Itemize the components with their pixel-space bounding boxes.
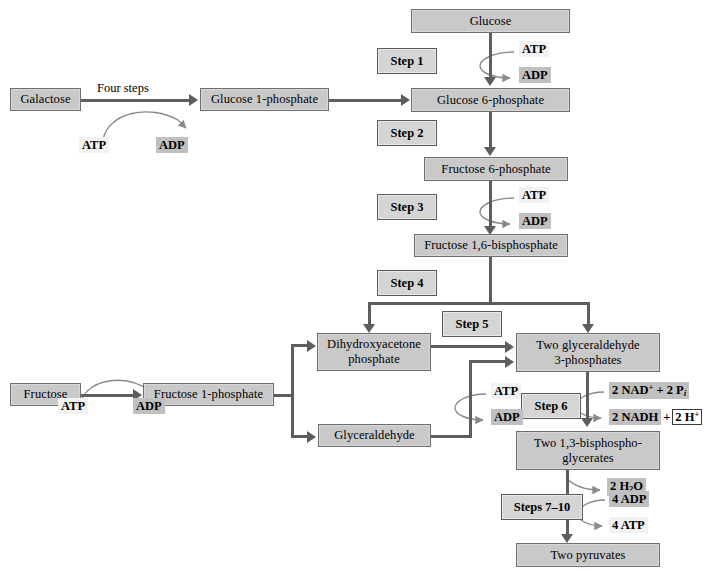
cofactor-pi-prefix: + 2 P: [653, 383, 683, 397]
connector-split-left-down: [368, 302, 371, 326]
arrowhead-galactose-to-g1p: [189, 94, 198, 106]
arrowhead-split-to-g3p: [582, 324, 594, 333]
metabolite-box-pyruvate[interactable]: Two pyruvates: [516, 543, 660, 567]
metabolite-label-pyruvate: Two pyruvates: [546, 548, 629, 563]
arrowhead-split-to-dhap: [363, 324, 375, 333]
metabolite-box-glucose-6-phosphate[interactable]: Glucose 6-phosphate: [411, 88, 570, 112]
cofactor-pi-subscript: i: [684, 388, 687, 398]
step-label-1[interactable]: Step 1: [377, 48, 437, 74]
connector-dhap-to-g3p: [430, 345, 506, 348]
cofactor-nad-prefix: 2 NAD: [612, 383, 648, 397]
connector-glyceraldehyde-right: [430, 435, 472, 438]
connector-glyceraldehyde-to-g3p: [469, 360, 506, 363]
cofactor-nadh-plus: +: [661, 410, 672, 424]
cofactor-proton-text: 2 H: [675, 410, 694, 424]
metabolite-box-fructose-1-6-bisphosphate[interactable]: Fructose 1,6-bisphosphate: [414, 234, 568, 257]
step-label-4-text: Step 4: [391, 276, 424, 291]
metabolite-label-dhap-line1: Dihydroxyacetone: [323, 337, 425, 352]
arrowhead-f1p-to-dhap: [307, 340, 316, 352]
step-label-3[interactable]: Step 3: [377, 194, 437, 220]
metabolite-label-glucose: Glucose: [466, 14, 516, 29]
metabolite-box-glucose-1-phosphate[interactable]: Glucose 1-phosphate: [200, 88, 329, 111]
metabolite-label-fructose-1-phosphate: Fructose 1-phosphate: [150, 387, 267, 402]
connector-glucose-to-g6p: [489, 32, 492, 79]
step-label-5[interactable]: Step 5: [442, 311, 502, 337]
cofactor-atp-step3: ATP: [519, 187, 549, 203]
step-label-6-text: Step 6: [535, 399, 568, 414]
metabolite-box-fructose-6-phosphate[interactable]: Fructose 6-phosphate: [424, 157, 568, 181]
metabolite-label-dhap-line2: phosphate: [344, 352, 404, 367]
connector-f1p-split-vertical: [291, 344, 294, 438]
metabolite-label-bpg-line2: glycerates: [558, 451, 618, 466]
metabolite-label-glyceraldehyde: Glyceraldehyde: [330, 428, 419, 443]
metabolite-box-glyceraldehyde[interactable]: Glyceraldehyde: [318, 424, 431, 447]
metabolite-label-fructose-1-6-bisphosphate: Fructose 1,6-bisphosphate: [420, 238, 562, 253]
step-label-2[interactable]: Step 2: [377, 120, 437, 146]
step-label-7-10-text: Steps 7–10: [514, 500, 571, 515]
cofactor-atp-galactose: ATP: [79, 137, 109, 153]
connector-split-bar: [368, 302, 590, 305]
metabolite-label-g3p-line1: Two glyceraldehyde: [532, 338, 643, 353]
step-label-7-10[interactable]: Steps 7–10: [501, 494, 583, 520]
cofactor-4-adp: 4 ADP: [609, 491, 649, 507]
metabolite-label-galactose: Galactose: [16, 92, 74, 107]
connector-f6p-to-fbp: [489, 181, 492, 228]
arrowhead-glyceraldehyde-to-g3p: [505, 356, 514, 368]
connector-f1p-right: [273, 394, 293, 397]
metabolite-box-glyceraldehyde-3-phosphate[interactable]: Two glyceraldehyde 3-phosphates: [516, 333, 660, 372]
cofactor-adp-fructose: ADP: [133, 398, 165, 414]
connector-g3p-to-bpg: [586, 372, 589, 420]
metabolite-box-galactose[interactable]: Galactose: [10, 88, 81, 111]
glycolysis-diagram: Glucose Galactose Glucose 1-phosphate Gl…: [0, 0, 717, 577]
cofactor-nad-plus-phosphate: 2 NAD+ + 2 Pi: [609, 382, 689, 399]
step-label-1-text: Step 1: [391, 54, 424, 69]
step-label-2-text: Step 2: [391, 126, 424, 141]
step-label-4[interactable]: Step 4: [377, 270, 437, 296]
metabolite-box-1-3-bisphosphoglycerate[interactable]: Two 1,3-bisphospho- glycerates: [516, 431, 660, 470]
connector-glyceraldehyde-up: [469, 360, 472, 438]
arrowhead-glucose-to-g6p: [484, 77, 496, 86]
metabolite-label-glucose-6-phosphate: Glucose 6-phosphate: [433, 93, 548, 108]
arrowhead-g1p-to-g6p: [401, 94, 410, 106]
connector-g6p-to-f6p: [489, 112, 492, 150]
arrowhead-dhap-to-g3p: [505, 341, 514, 353]
cofactor-atp-fructose: ATP: [58, 398, 88, 414]
cofactor-adp-step3: ADP: [519, 213, 551, 229]
cofactor-atp-glyceraldehyde: ATP: [491, 383, 521, 399]
arrowhead-bpg-to-pyruvate: [561, 534, 573, 543]
cofactor-atp-step1: ATP: [519, 41, 549, 57]
metabolite-label-fructose-6-phosphate: Fructose 6-phosphate: [437, 162, 554, 177]
arrowhead-g6p-to-f6p: [484, 147, 496, 156]
cofactor-nadh-and-proton: 2 NADH+2 H+: [606, 408, 705, 426]
four-steps-label: Four steps: [97, 81, 149, 96]
metabolite-label-g3p-line2: 3-phosphates: [550, 353, 625, 368]
cofactor-4-atp: 4 ATP: [609, 517, 648, 533]
metabolite-box-glucose[interactable]: Glucose: [411, 9, 570, 33]
cofactor-proton: 2 H+: [672, 409, 702, 425]
metabolite-label-bpg-line1: Two 1,3-bisphospho-: [530, 436, 646, 451]
cofactor-adp-glyceraldehyde: ADP: [491, 409, 523, 425]
metabolite-box-dihydroxyacetone-phosphate[interactable]: Dihydroxyacetone phosphate: [317, 333, 431, 371]
connector-galactose-to-g1p: [80, 99, 190, 102]
connector-fructose-to-f1p: [80, 394, 134, 397]
cofactor-nadh: 2 NADH: [609, 409, 661, 425]
cofactor-adp-galactose: ADP: [156, 137, 188, 153]
step-label-6[interactable]: Step 6: [521, 393, 581, 419]
cofactor-proton-charge: +: [694, 409, 699, 419]
metabolite-label-glucose-1-phosphate: Glucose 1-phosphate: [207, 92, 322, 107]
connector-fbp-down: [489, 257, 492, 304]
arrowhead-g3p-to-bpg: [581, 418, 593, 427]
connector-g1p-to-g6p: [328, 99, 402, 102]
step-label-3-text: Step 3: [391, 200, 424, 215]
connector-split-right-down: [587, 302, 590, 326]
arrowhead-f1p-to-glyceraldehyde: [307, 431, 316, 443]
step-label-5-text: Step 5: [456, 317, 489, 332]
cofactor-adp-step1: ADP: [519, 67, 551, 83]
